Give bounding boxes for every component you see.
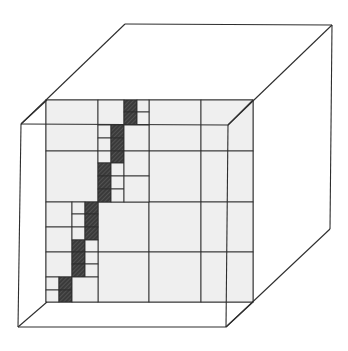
grid-cell xyxy=(111,163,124,176)
cube-edge xyxy=(18,124,21,327)
grid-cell xyxy=(46,290,59,302)
grid-cell xyxy=(149,100,201,151)
grid-cell xyxy=(46,277,59,290)
hatched-cell xyxy=(98,189,111,202)
grid-cell xyxy=(137,112,149,125)
hatched-cell xyxy=(124,112,137,125)
grid-cell xyxy=(72,214,85,227)
grid-cell xyxy=(149,252,201,302)
hatched-cell xyxy=(124,100,137,112)
grid-cell xyxy=(98,252,149,302)
grid-cell xyxy=(72,277,98,302)
grid-cell xyxy=(149,202,201,252)
grid-cell xyxy=(98,138,111,151)
grid-cell xyxy=(98,100,124,125)
grid-cell xyxy=(98,202,149,252)
grid-cell xyxy=(98,125,111,138)
grid-cell xyxy=(85,252,98,264)
hatched-cell xyxy=(72,240,85,252)
hatched-cell xyxy=(72,252,85,264)
hatched-cell xyxy=(59,277,72,290)
diagram-canvas xyxy=(0,0,348,351)
grid-cell xyxy=(46,100,98,151)
grid-cell xyxy=(137,100,149,112)
cube-edge xyxy=(226,302,253,327)
grid-cell xyxy=(149,151,201,202)
quadtree-cells xyxy=(46,100,253,302)
grid-cell xyxy=(46,252,72,277)
hatched-cell xyxy=(85,214,98,227)
hatched-cell xyxy=(98,176,111,189)
grid-cell xyxy=(124,151,149,176)
cube-edge xyxy=(330,25,332,229)
hatched-cell xyxy=(85,202,98,214)
grid-cell xyxy=(98,151,111,163)
grid-cell xyxy=(46,227,72,252)
grid-cell xyxy=(72,227,85,240)
hatched-cell xyxy=(59,290,72,302)
grid-cell xyxy=(46,202,72,227)
grid-cell xyxy=(85,240,98,252)
cube-edge xyxy=(21,100,47,124)
hatched-cell xyxy=(111,125,124,138)
cube-quadtree-diagram: Isometric cube containing an adaptive qu… xyxy=(0,0,348,351)
grid-cell xyxy=(72,202,85,214)
grid-cell xyxy=(111,176,124,189)
hatched-cell xyxy=(72,264,85,277)
grid-cell xyxy=(124,176,149,202)
grid-cell xyxy=(85,264,98,277)
cube-edge xyxy=(18,302,47,327)
hatched-cell xyxy=(98,163,111,176)
cube-edge xyxy=(125,24,332,25)
grid-cell xyxy=(124,125,149,151)
grid-cell xyxy=(111,189,124,202)
hatched-cell xyxy=(111,138,124,151)
grid-cell xyxy=(46,151,98,202)
hatched-cell xyxy=(85,227,98,240)
hatched-cell xyxy=(111,151,124,163)
